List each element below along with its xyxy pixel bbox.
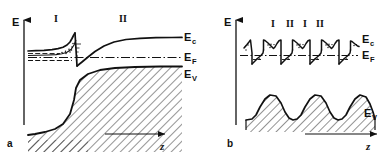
panel-b: E I II I II: [224, 16, 379, 152]
svg-text:E: E: [362, 33, 369, 45]
panel-b-electron-dots: [245, 44, 357, 60]
panel-b-region-label-II-2: II: [316, 18, 324, 29]
panel-a-region-label-I: I: [54, 13, 58, 24]
panel-b-region-label-II-1: II: [286, 18, 294, 29]
panel-b-region-label-I-1: I: [271, 18, 275, 29]
panel-a-conduction-band: [28, 33, 182, 66]
panel-b-region-label-I-2: I: [303, 18, 307, 29]
panel-a-z-axis-label: z: [159, 140, 165, 152]
panel-b-conduction-band-label: E c: [362, 33, 374, 48]
svg-text:E: E: [362, 49, 369, 61]
panel-a-conduction-band-label: E c: [184, 31, 196, 46]
panel-a-id: a: [7, 138, 13, 149]
panel-a-energy-axis-label: E: [12, 16, 19, 28]
panel-b-energy-axis-label: E: [224, 16, 231, 28]
svg-text:E: E: [184, 31, 191, 43]
panel-a-fermi-level-label: E F: [184, 51, 197, 66]
svg-text:V: V: [372, 113, 377, 122]
panel-a-region-label-II: II: [119, 13, 127, 24]
svg-text:c: c: [370, 39, 374, 48]
svg-text:F: F: [192, 57, 197, 66]
panel-b-valence-band: [244, 90, 379, 135]
panel-b-fermi-level-label: E F: [362, 49, 375, 64]
figure-canvas: E I II: [0, 0, 388, 157]
panel-a: E I II: [7, 13, 197, 155]
svg-text:E: E: [184, 68, 191, 80]
panel-b-id: b: [227, 138, 233, 149]
panel-a-substrate-hatching: [28, 138, 88, 152]
panel-b-conduction-band: [244, 40, 359, 64]
svg-text:E: E: [184, 51, 191, 63]
svg-text:V: V: [192, 74, 197, 83]
band-diagram-figure: E I II: [0, 0, 388, 157]
svg-text:E: E: [364, 107, 371, 119]
panel-b-z-axis-label: z: [365, 140, 371, 152]
svg-text:F: F: [370, 55, 375, 64]
panel-a-valence-band-label: E V: [184, 68, 197, 83]
svg-text:c: c: [192, 37, 196, 46]
